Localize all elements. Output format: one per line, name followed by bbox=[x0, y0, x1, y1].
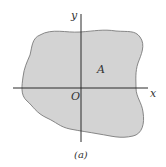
region-a-shape bbox=[22, 30, 144, 137]
origin-label: O bbox=[71, 90, 80, 103]
region-label: A bbox=[96, 63, 105, 76]
y-axis-label: y bbox=[70, 9, 78, 22]
area-diagram: y x O A (a) bbox=[0, 0, 166, 167]
figure-caption: (a) bbox=[74, 149, 88, 160]
x-axis-label: x bbox=[150, 87, 157, 100]
